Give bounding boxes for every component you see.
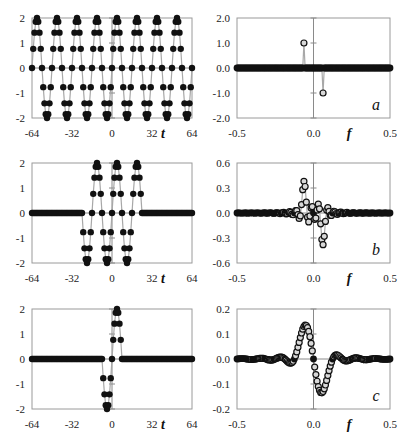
y-tick-label: -1 [16, 232, 25, 244]
x-axis-label: f [347, 126, 353, 141]
data-point [65, 111, 71, 117]
data-point [40, 84, 46, 90]
data-point [70, 46, 76, 52]
data-point [38, 46, 44, 52]
data-point [180, 84, 186, 90]
data-point [99, 356, 105, 362]
data-point [108, 229, 114, 235]
data-point [79, 210, 85, 216]
data-point [116, 29, 122, 35]
data-point [159, 65, 165, 71]
data-point [166, 100, 172, 106]
x-tick-label: -0.5 [228, 127, 246, 139]
y-tick-label: -1 [16, 87, 25, 99]
data-point [165, 111, 171, 117]
x-tick-label: -64 [25, 418, 40, 430]
data-point [130, 46, 136, 52]
data-point [115, 19, 121, 25]
data-point [110, 46, 116, 52]
panel-letter: a [372, 96, 380, 113]
x-axis-label: t [161, 417, 166, 432]
data-point [297, 213, 303, 219]
data-point [129, 210, 135, 216]
data-point [129, 65, 135, 71]
x-axis-label: t [161, 271, 166, 286]
data-point [79, 65, 85, 71]
x-tick-label: 0.5 [383, 418, 397, 430]
data-point [36, 29, 42, 35]
data-point [76, 29, 82, 35]
data-point [110, 191, 116, 197]
data-point [75, 19, 81, 25]
data-point [138, 191, 144, 197]
panel-b-spectrum-plot: 0.60.30.0-0.3-0.6-0.50.00.5fb [213, 157, 398, 286]
data-point [307, 334, 313, 340]
data-point [189, 210, 195, 216]
data-point [78, 46, 84, 52]
data-point [155, 19, 161, 25]
data-point [119, 210, 125, 216]
data-point [98, 46, 104, 52]
data-point [116, 320, 122, 326]
panel-a-time-plot: 210-1-2-64-3203264t [16, 12, 198, 141]
x-tick-label: 0.0 [307, 418, 321, 430]
data-point [310, 356, 317, 363]
data-point [89, 65, 95, 71]
x-axis-label: f [347, 417, 353, 432]
data-point [80, 229, 86, 235]
data-point [90, 46, 96, 52]
data-point [58, 46, 64, 52]
y-tick-label: -0.1 [213, 378, 230, 390]
x-tick-label: 0 [109, 418, 115, 430]
y-tick-label: 0.1 [216, 328, 230, 340]
y-tick-label: 0.6 [216, 157, 230, 169]
data-point [135, 164, 141, 170]
data-point [50, 46, 56, 52]
data-point [98, 191, 104, 197]
x-tick-label: -32 [65, 127, 80, 139]
data-point [100, 375, 106, 381]
data-point [48, 84, 54, 90]
data-point [39, 65, 45, 71]
data-point [120, 229, 126, 235]
data-point [99, 65, 105, 71]
x-tick-label: 0.5 [383, 127, 397, 139]
data-point [145, 111, 151, 117]
x-tick-label: 0.0 [307, 127, 321, 139]
y-tick-label: -0.2 [213, 403, 230, 415]
data-point [46, 100, 52, 106]
data-point [313, 372, 319, 378]
y-tick-label: 0 [20, 62, 26, 74]
data-point [189, 356, 195, 362]
data-point [118, 191, 124, 197]
panel-letter: b [372, 241, 380, 258]
data-point [387, 65, 394, 72]
data-point [128, 84, 134, 90]
data-point [188, 84, 194, 90]
data-point [313, 215, 319, 221]
data-point [175, 19, 181, 25]
panel-b-time-plot: 210-1-2-64-3203264t [16, 157, 198, 286]
data-point [96, 174, 102, 180]
y-tick-label: 2 [20, 303, 26, 315]
data-point [108, 375, 114, 381]
data-point [30, 46, 36, 52]
y-tick-label: -2 [16, 403, 25, 415]
data-point [96, 29, 102, 35]
panel-c-spectrum-plot: 0.20.10.0-0.1-0.2-0.50.00.5fc [213, 303, 398, 432]
x-tick-label: 32 [147, 127, 158, 139]
data-point [85, 111, 91, 117]
panel-letter: c [372, 387, 379, 404]
data-point [88, 84, 94, 90]
data-point [59, 65, 65, 71]
y-tick-label: -1 [16, 378, 25, 390]
y-tick-label: 2.0 [216, 12, 230, 24]
y-tick-label: -2.0 [213, 112, 231, 124]
data-point [86, 245, 92, 251]
y-tick-label: 0 [20, 207, 26, 219]
data-point [158, 46, 164, 52]
data-point [302, 184, 308, 190]
data-point [88, 229, 94, 235]
data-point [320, 90, 326, 96]
data-point [100, 84, 106, 90]
